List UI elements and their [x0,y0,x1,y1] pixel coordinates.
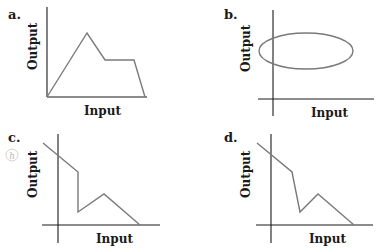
y-axis-label-d: Output [239,150,253,198]
panel-b: b. Output Input [224,7,374,120]
y-axis-label-b: Output [239,24,253,72]
panel-c: c. h Output Input [6,130,160,246]
x-axis-label-d: Input [309,232,346,246]
panel-label-b: b. [224,7,238,22]
x-axis-label-b: Input [311,106,348,120]
y-axis-label-c: Output [26,150,40,198]
panel-d: d. Output Input [224,130,373,246]
hint-icon-glyph: h [9,151,15,161]
panel-a: a. Output Input [8,7,147,118]
panel-label-c: c. [8,130,20,145]
x-axis-label-a: Input [84,104,121,118]
curve-a [47,33,145,97]
figure-canvas: a. Output Input b. Output Input c. h Out… [0,0,378,252]
panel-label-a: a. [8,7,21,22]
y-axis-label-a: Output [26,22,40,70]
panel-label-d: d. [224,130,238,145]
x-axis-label-c: Input [96,232,133,246]
